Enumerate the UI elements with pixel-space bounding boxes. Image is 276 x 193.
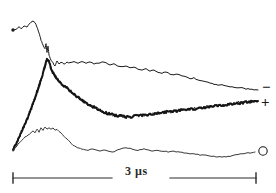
trace-plus-overstrike — [13, 58, 258, 150]
trace-plus — [13, 59, 258, 150]
trace-zero — [13, 127, 255, 157]
series-label-minus: − — [262, 80, 271, 95]
series-label-zero — [259, 147, 267, 155]
series-label-plus: + — [261, 95, 270, 110]
traces-group — [11, 21, 267, 157]
figure-panel: − + 3 µs — [0, 0, 276, 193]
scalebar-label: 3 µs — [125, 164, 148, 179]
trace-minus-start-dot — [11, 28, 14, 31]
trace-minus — [13, 21, 258, 90]
